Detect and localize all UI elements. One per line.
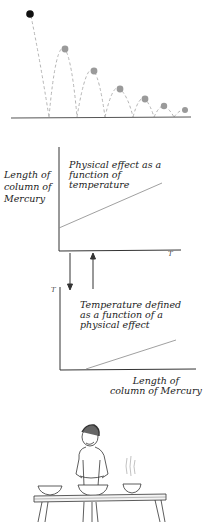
steam-icon	[126, 456, 135, 476]
bowl-center	[78, 485, 108, 496]
boy-at-table-illustration	[0, 0, 216, 522]
bowl-left	[38, 486, 62, 495]
bowl-right	[123, 484, 141, 493]
